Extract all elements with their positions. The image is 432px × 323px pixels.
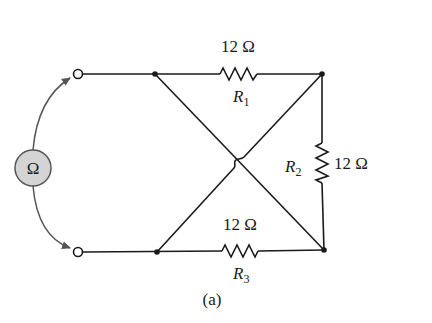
r2-value-label: 12 Ω [334, 154, 368, 173]
terminal-top [74, 70, 83, 79]
r3-name-label: R3 [232, 264, 249, 286]
node [319, 71, 325, 77]
resistor-r3-icon [222, 245, 258, 257]
r2-name-label: R2 [284, 157, 301, 179]
r3-value-label: 12 Ω [223, 215, 257, 234]
wire [322, 183, 324, 250]
node [321, 247, 327, 253]
figure-caption: (a) [203, 290, 222, 309]
resistor-r1-icon [220, 68, 257, 80]
r1-name-label: R1 [232, 87, 249, 109]
node [154, 249, 160, 255]
r1-value-label: 12 Ω [221, 37, 255, 56]
meter-lead-top [33, 78, 70, 150]
wire [83, 251, 223, 252]
ohmmeter: Ω [15, 150, 51, 186]
meter-lead-bottom [33, 186, 70, 248]
right-branch [316, 74, 328, 250]
wire [258, 250, 324, 251]
top-branch [83, 68, 323, 80]
terminal-bottom [74, 248, 83, 257]
bottom-branch [83, 245, 325, 257]
ohm-symbol-icon: Ω [27, 159, 40, 178]
node [152, 71, 158, 77]
resistor-r2-icon [316, 143, 328, 183]
circuit-diagram: Ω 12 Ω R1 R2 12 Ω 12 Ω R3 (a) [0, 0, 432, 323]
